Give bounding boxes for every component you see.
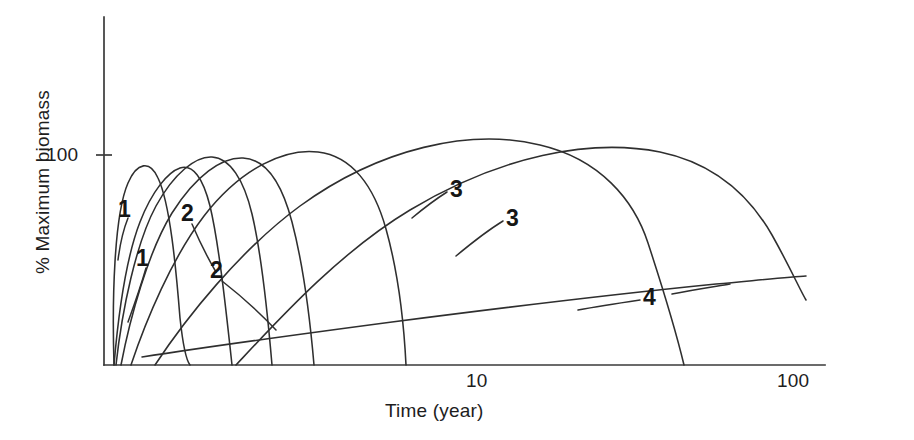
x-axis-tick-label-100: 100	[777, 370, 809, 392]
x-axis-tick-label-10: 10	[466, 370, 488, 392]
curve-label-3a: 3	[450, 176, 463, 203]
leader-line-label-2b	[222, 281, 276, 330]
leader-line-label-3b	[456, 221, 503, 256]
x-axis-title: Time (year)	[385, 400, 484, 422]
curve-label-1a: 1	[118, 196, 131, 223]
biomass-succession-figure: 100 10 100 Time (year) % Maximum biomass…	[0, 0, 914, 440]
curve-label-3b: 3	[506, 205, 519, 232]
leader-line-label-1a	[118, 218, 128, 260]
y-axis-title: % Maximum biomass	[32, 90, 54, 274]
curve-label-2b: 2	[210, 257, 223, 284]
curve-label-1b: 1	[136, 245, 149, 272]
curve-label-4: 4	[643, 284, 656, 311]
curve-stage-3c	[236, 147, 806, 365]
leader-line-label-4-left	[578, 300, 640, 310]
curve-stage-3b	[155, 139, 684, 365]
curve-label-2a: 2	[181, 200, 194, 227]
